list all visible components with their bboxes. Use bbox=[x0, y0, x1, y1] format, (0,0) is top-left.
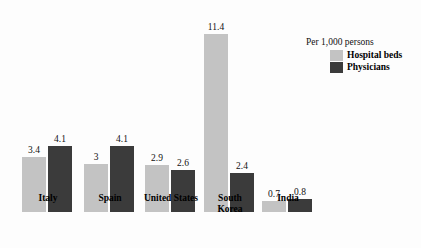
bar-rect-hospital-beds bbox=[145, 165, 169, 212]
legend-swatch-hospital-beds bbox=[330, 50, 343, 61]
category-label-india: India bbox=[254, 193, 322, 204]
bar-rect-physicians bbox=[171, 170, 195, 212]
bars-row: 3.4 4.1 bbox=[22, 22, 74, 212]
category-label-line1: Italy bbox=[14, 193, 82, 204]
bar-value-label: 2.4 bbox=[236, 161, 248, 172]
bar-group-italy: 3.4 4.1 Italy bbox=[22, 22, 74, 212]
bar-value-label: 11.4 bbox=[208, 22, 224, 33]
bar-italy-physicians[interactable]: 4.1 bbox=[48, 22, 72, 212]
category-label-line2: Korea bbox=[196, 204, 264, 215]
category-label-line1: United States bbox=[137, 193, 205, 204]
bar-group-united-states: 2.9 2.6 United States bbox=[145, 22, 197, 212]
bar-united-states-hospital-beds[interactable]: 2.9 bbox=[145, 22, 169, 212]
bar-group-south-korea: 11.4 2.4 South Korea bbox=[204, 22, 256, 212]
bar-united-states-physicians[interactable]: 2.6 bbox=[171, 22, 195, 212]
bar-value-label: 4.1 bbox=[54, 134, 66, 145]
bar-spain-hospital-beds[interactable]: 3 bbox=[84, 22, 108, 212]
legend-label-hospital-beds: Hospital beds bbox=[347, 50, 402, 61]
bar-group-spain: 3 4.1 Spain bbox=[84, 22, 136, 212]
bar-italy-hospital-beds[interactable]: 3.4 bbox=[22, 22, 46, 212]
legend-item-hospital-beds[interactable]: Hospital beds bbox=[330, 50, 418, 61]
category-label-spain: Spain bbox=[76, 193, 144, 204]
bars-row: 11.4 2.4 bbox=[204, 22, 256, 212]
category-label-line1: India bbox=[254, 193, 322, 204]
legend-label-physicians: Physicians bbox=[347, 62, 390, 73]
bar-value-label: 4.1 bbox=[116, 134, 128, 145]
bar-rect-hospital-beds bbox=[204, 34, 228, 212]
bar-value-label: 2.9 bbox=[151, 153, 163, 164]
bar-south-korea-hospital-beds[interactable]: 11.4 bbox=[204, 22, 228, 212]
bar-rect-hospital-beds bbox=[84, 164, 108, 212]
bar-spain-physicians[interactable]: 4.1 bbox=[110, 22, 134, 212]
legend-item-physicians[interactable]: Physicians bbox=[330, 62, 418, 73]
bar-value-label: 3.4 bbox=[28, 145, 40, 156]
grouped-bar-chart: 3.4 4.1 Italy 3 4.1 bbox=[0, 0, 421, 248]
legend-swatch-physicians bbox=[330, 62, 343, 73]
legend-title: Per 1,000 persons bbox=[306, 36, 418, 48]
bar-india-hospital-beds[interactable]: 0.7 bbox=[262, 22, 286, 212]
category-label-italy: Italy bbox=[14, 193, 82, 204]
category-label-line1: Spain bbox=[76, 193, 144, 204]
bar-value-label: 3 bbox=[94, 152, 99, 163]
bar-south-korea-physicians[interactable]: 2.4 bbox=[230, 22, 254, 212]
category-label-united-states: United States bbox=[137, 193, 205, 204]
plot-area: 3.4 4.1 Italy 3 4.1 bbox=[0, 0, 330, 248]
bar-value-label: 2.6 bbox=[177, 158, 189, 169]
bars-row: 3 4.1 bbox=[84, 22, 136, 212]
bars-row: 2.9 2.6 bbox=[145, 22, 197, 212]
chart-legend: Per 1,000 persons Hospital beds Physicia… bbox=[298, 36, 418, 73]
